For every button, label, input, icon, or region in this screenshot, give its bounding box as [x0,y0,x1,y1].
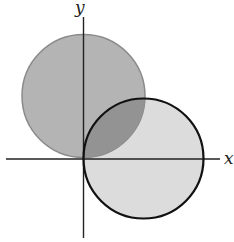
y-axis-label: y [74,0,85,17]
x-axis-label: x [224,148,234,168]
diagram-canvas: x y [0,0,234,242]
